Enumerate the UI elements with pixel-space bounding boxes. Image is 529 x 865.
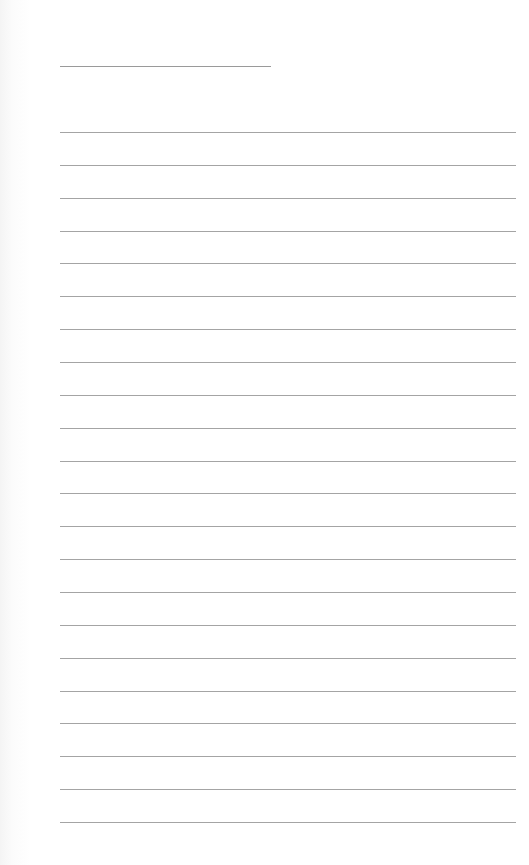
ruled-line	[60, 658, 516, 659]
title-line	[60, 66, 271, 67]
ruled-line	[60, 263, 516, 264]
ruled-line	[60, 428, 516, 429]
ruled-line	[60, 723, 516, 724]
ruled-line	[60, 395, 516, 396]
ruled-line	[60, 231, 516, 232]
ruled-line	[60, 822, 516, 823]
ruled-line	[60, 756, 516, 757]
ruled-line	[60, 132, 516, 133]
ruled-line	[60, 592, 516, 593]
lined-paper-sheet	[0, 0, 529, 865]
ruled-line	[60, 198, 516, 199]
ruled-line	[60, 329, 516, 330]
ruled-line	[60, 559, 516, 560]
ruled-line	[60, 461, 516, 462]
ruled-line	[60, 625, 516, 626]
ruled-line	[60, 362, 516, 363]
ruled-line	[60, 691, 516, 692]
ruled-line	[60, 526, 516, 527]
ruled-line	[60, 165, 516, 166]
ruled-line	[60, 493, 516, 494]
ruled-line	[60, 789, 516, 790]
ruled-line	[60, 296, 516, 297]
